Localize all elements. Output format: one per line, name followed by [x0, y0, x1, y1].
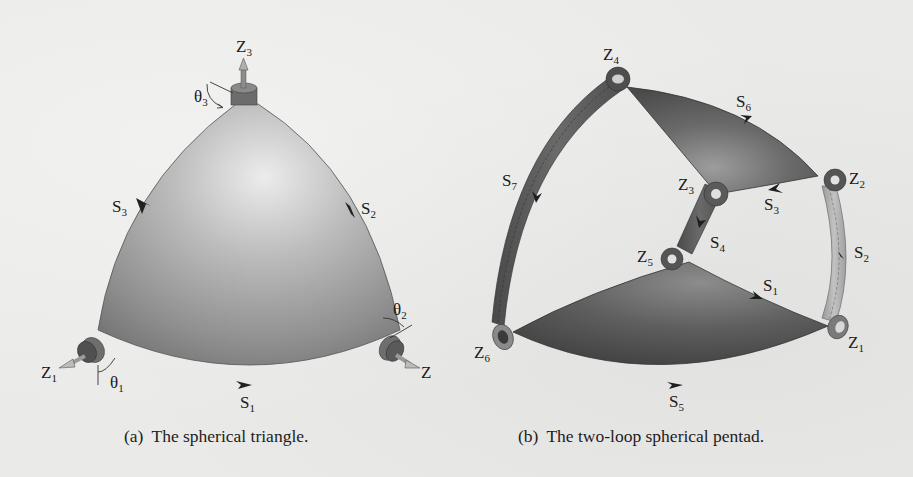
label-s7: S7: [502, 171, 517, 192]
joint-z4: [606, 67, 630, 91]
figure-canvas: Z3 θ3 S3 S2 θ2 Z1 θ1 Z S1: [0, 0, 913, 477]
label-z3: Z3: [236, 37, 252, 58]
label-s4: S4: [710, 233, 725, 254]
label-s2: S2: [854, 243, 869, 264]
label-theta3: θ3: [194, 87, 208, 108]
label-s1: S1: [763, 276, 778, 297]
label-z4: Z4: [603, 45, 619, 66]
joint-z3: [231, 58, 257, 105]
joint-z2: [824, 169, 846, 191]
label-theta2: θ2: [393, 300, 407, 321]
label-s3: S3: [764, 195, 779, 216]
caption-text: The spherical triangle.: [151, 426, 308, 446]
direction-arrow-icon: [236, 381, 252, 389]
label-z6: Z6: [474, 343, 490, 364]
label-z2: Z2: [849, 169, 865, 190]
caption-panel-b: (b)The two-loop spherical pentad.: [518, 426, 764, 447]
label-s1: S1: [240, 393, 255, 414]
link-s7: [492, 78, 622, 326]
axis-arrow-icon: [59, 359, 75, 368]
label-z1: Z1: [41, 363, 57, 384]
link-s2: [822, 186, 846, 322]
spherical-pentad-diagram: Z4 S6 S7 Z3 Z2 S3 S4 S2 Z5 S1 Z1 Z6 S5: [474, 45, 869, 413]
label-z5: Z5: [637, 247, 653, 268]
label-z2: Z: [421, 363, 431, 382]
joint-z5: [661, 248, 683, 270]
joint-z3: [704, 182, 728, 206]
label-z1: Z1: [848, 333, 864, 354]
bottom-plate: [513, 262, 828, 365]
axis-arrow-icon: [405, 360, 420, 368]
label-s3: S3: [112, 197, 127, 218]
label-s6: S6: [736, 92, 751, 113]
spherical-triangle-surface: [98, 104, 400, 365]
label-s5: S5: [669, 392, 684, 413]
caption-tag: (a): [124, 426, 143, 446]
label-theta1: θ1: [110, 373, 124, 394]
caption-panel-a: (a)The spherical triangle.: [124, 426, 308, 447]
joint-z6: [489, 321, 517, 352]
caption-tag: (b): [518, 426, 538, 446]
caption-text: The two-loop spherical pentad.: [546, 426, 764, 446]
spherical-triangle-diagram: Z3 θ3 S3 S2 θ2 Z1 θ1 Z S1: [41, 37, 431, 414]
label-s2: S2: [361, 199, 376, 220]
axis-arrow-icon: [239, 58, 248, 70]
joint-z1: [59, 333, 109, 368]
top-plate: [627, 87, 818, 194]
label-z3: Z3: [678, 175, 694, 196]
direction-arrow-icon: [667, 382, 683, 389]
